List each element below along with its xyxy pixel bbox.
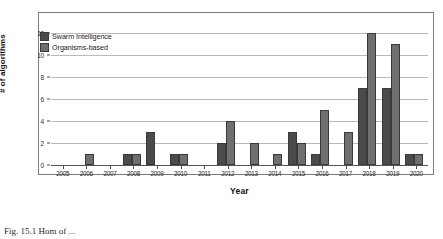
figure-caption: Fig. 15.1 Hom of ... — [4, 226, 304, 239]
bar — [382, 88, 391, 165]
x-axis-tick-mark — [157, 166, 158, 169]
x-axis-tick-label: 2010 — [174, 170, 187, 177]
x-axis-tick-label: 2020 — [410, 170, 423, 177]
bar — [179, 154, 188, 165]
x-axis-tick-label: 2017 — [339, 170, 352, 177]
bar-group — [145, 22, 169, 165]
y-axis-tick-label: 0 — [41, 162, 44, 169]
x-axis-tick-label: 2015 — [292, 170, 305, 177]
x-axis-tick-label: 2005 — [56, 170, 69, 177]
x-axis-tick-mark — [416, 166, 417, 169]
x-axis-tick-label: 2011 — [198, 170, 211, 177]
x-axis-tick-label: 2014 — [268, 170, 281, 177]
bar — [311, 154, 320, 165]
x-axis-tick-mark — [204, 166, 205, 169]
bar — [391, 44, 400, 165]
bar-group — [216, 22, 240, 165]
bar — [367, 33, 376, 165]
x-axis-tick-mark — [63, 166, 64, 169]
bar — [217, 143, 226, 165]
legend-swatch-icon — [40, 43, 49, 52]
y-axis-tick-label: 2 — [41, 140, 44, 147]
bar-group — [334, 22, 358, 165]
legend-label: Swarm Intelligence — [52, 32, 112, 41]
bar — [226, 121, 235, 165]
x-axis-tick-mark — [275, 166, 276, 169]
bar — [344, 132, 353, 165]
x-axis-tick-mark — [133, 166, 134, 169]
bar — [273, 154, 282, 165]
x-axis-tick-mark — [346, 166, 347, 169]
bar-group — [240, 22, 264, 165]
bar — [297, 143, 306, 165]
x-axis-tick-mark — [322, 166, 323, 169]
bar — [250, 143, 259, 165]
bar-group — [357, 22, 381, 165]
y-axis-tick-mark — [47, 165, 50, 166]
bar — [123, 154, 132, 165]
bar-group — [404, 22, 428, 165]
legend: Swarm Intelligence Organisms-based — [40, 31, 112, 53]
x-axis-tick-mark — [181, 166, 182, 169]
bar — [358, 88, 367, 165]
x-axis-tick-label: 2012 — [221, 170, 234, 177]
y-axis-title: # of algorithms — [0, 34, 7, 93]
bar — [414, 154, 423, 165]
bar-group — [263, 22, 287, 165]
bar-group — [169, 22, 193, 165]
x-axis-tick-mark — [86, 166, 87, 169]
x-axis-tick-label: 2008 — [127, 170, 140, 177]
y-axis-tick-label: 8 — [41, 74, 44, 81]
y-axis-tick-label: 4 — [41, 118, 44, 125]
y-axis-tick-mark — [47, 55, 50, 56]
x-axis-tick-mark — [393, 166, 394, 169]
bar-group — [192, 22, 216, 165]
legend-swatch-icon — [40, 32, 49, 41]
x-axis-title: Year — [51, 186, 428, 196]
y-axis-tick-mark — [47, 143, 50, 144]
x-axis-tick-label: 2007 — [103, 170, 116, 177]
x-axis-tick-label: 2013 — [245, 170, 258, 177]
bar — [288, 132, 297, 165]
x-axis-tick-mark — [110, 166, 111, 169]
bar-group — [310, 22, 334, 165]
x-axis-tick-mark — [369, 166, 370, 169]
x-axis-tick-mark — [228, 166, 229, 169]
x-axis-tick-label: 2006 — [80, 170, 93, 177]
x-axis-tick-label: 2018 — [363, 170, 376, 177]
y-axis-tick-label: 6 — [41, 96, 44, 103]
x-axis-tick-label: 2019 — [386, 170, 399, 177]
y-axis-tick-mark — [47, 121, 50, 122]
bar — [132, 154, 141, 165]
x-axis: 2005200620072008200920102011201220132014… — [51, 166, 428, 186]
bar — [405, 154, 414, 165]
bar — [85, 154, 94, 165]
bar-group — [381, 22, 405, 165]
legend-item-organisms-based: Organisms-based — [40, 42, 112, 52]
bar — [146, 132, 155, 165]
figure: # of algorithms 024681012 20052006200720… — [0, 0, 443, 239]
bar-group — [122, 22, 146, 165]
x-axis-tick-mark — [251, 166, 252, 169]
bar — [320, 110, 329, 165]
legend-item-swarm-intelligence: Swarm Intelligence — [40, 31, 112, 41]
x-axis-tick-mark — [298, 166, 299, 169]
y-axis-tick-mark — [47, 77, 50, 78]
bar — [170, 154, 179, 165]
legend-label: Organisms-based — [52, 43, 108, 52]
y-axis-tick-mark — [47, 99, 50, 100]
bar-group — [287, 22, 311, 165]
x-axis-tick-label: 2016 — [315, 170, 328, 177]
x-axis-tick-label: 2009 — [151, 170, 164, 177]
